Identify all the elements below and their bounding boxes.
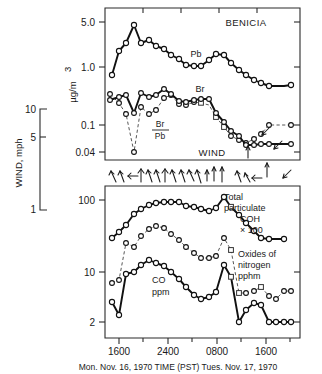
co-label-line1: CO <box>152 275 166 285</box>
chart-svg: 5.0 1.0 0.1 0.04 µg/m 3 BENICIA Pb <box>0 0 322 374</box>
top-panel-ylabel-text: µg/m <box>67 81 78 102</box>
wind-arrow <box>146 170 152 182</box>
co-label-line2: ppm <box>152 287 170 297</box>
xaxis-caption: Mon. Nov. 16, 1970 TIME (PST) Tues. Nov.… <box>79 362 278 372</box>
top-ytick-1: 1.0 <box>81 62 95 73</box>
wind-arrow <box>154 170 160 182</box>
series-label-co: CO ppm <box>152 275 170 297</box>
wind-arrow <box>262 127 270 135</box>
xaxis-ticks <box>119 338 290 344</box>
wind-legend-axis-label: WIND, mph <box>13 138 24 187</box>
bottom-ytick-100: 100 <box>78 195 95 206</box>
nox-label-line1: Oxides of <box>238 249 277 259</box>
wind-arrow <box>244 173 250 182</box>
wind-legend-bracket <box>40 109 47 210</box>
coh-label-line4: × 100 <box>240 225 263 235</box>
wind-arrow <box>109 171 116 182</box>
wind-speed-legend: 10 5 1 WIND, mph <box>13 104 47 215</box>
series-label-br-pb: Br Pb <box>152 119 169 141</box>
bottom-ytick-2: 2 <box>89 317 95 328</box>
xtick-1600-end: 1600 <box>255 346 278 357</box>
wind-arrow <box>252 175 262 181</box>
wind-arrow <box>205 170 209 181</box>
wind-arrow <box>246 146 250 158</box>
figure-container: 5.0 1.0 0.1 0.04 µg/m 3 BENICIA Pb <box>0 0 322 374</box>
wind-legend-tick-1-label: 1 <box>30 204 36 215</box>
wind-arrow <box>283 170 291 178</box>
wind-arrow <box>235 171 241 182</box>
series-label-pb: Pb <box>190 49 201 59</box>
br-pb-denominator: Pb <box>155 131 166 141</box>
top-panel-ylabel-exponent: 3 <box>62 67 73 72</box>
xtick-1600-start: 1600 <box>108 346 131 357</box>
series-label-br: Br <box>196 84 205 94</box>
xtick-0800: 0800 <box>206 346 229 357</box>
wind-arrow <box>187 170 194 181</box>
wind-arrow <box>212 167 216 181</box>
wind-arrow <box>179 170 185 182</box>
wind-arrow <box>195 170 201 183</box>
wind-arrow <box>220 167 224 182</box>
wind-arrow <box>128 173 138 179</box>
wind-arrow <box>265 163 269 177</box>
series-label-nox: Oxides of nitrogen pphm <box>238 249 277 281</box>
top-panel-top-ticks <box>143 8 257 13</box>
coh-label-line2: particulate <box>224 203 266 213</box>
top-ytick-0-1: 0.1 <box>81 120 95 131</box>
coh-label-line1: Total <box>224 192 243 202</box>
series-br-markers <box>108 87 294 148</box>
wind-arrow <box>274 141 282 149</box>
wind-arrow <box>138 169 144 182</box>
nox-label-line3: pphm <box>238 271 261 281</box>
wind-arrow <box>170 170 176 182</box>
br-pb-numerator: Br <box>156 119 165 129</box>
nox-label-line2: nitrogen <box>238 260 271 270</box>
wind-legend-tick-10-label: 10 <box>25 104 37 115</box>
top-panel: 5.0 1.0 0.1 0.04 µg/m 3 BENICIA Pb <box>62 8 300 160</box>
series-label-coh: Total particulate COH × 100 <box>224 192 266 235</box>
wind-legend-axis-label-text: WIND, mph <box>13 138 24 187</box>
top-ytick-5: 5.0 <box>81 17 95 28</box>
coh-label-line3: COH <box>240 214 260 224</box>
wind-arrow <box>118 171 124 182</box>
wind-arrow <box>162 169 168 182</box>
bottom-ytick-10: 10 <box>84 267 96 278</box>
bottom-panel: 100 10 2 Total particulate COH × 100 <box>78 186 300 357</box>
wind-band-label: WIND <box>199 147 226 158</box>
wind-legend-tick-5-label: 5 <box>30 132 36 143</box>
top-panel-ylabel: µg/m 3 <box>62 67 78 103</box>
xtick-2400: 2400 <box>157 346 180 357</box>
top-ytick-0-04: 0.04 <box>76 147 96 158</box>
page-title: BENICIA <box>226 17 267 28</box>
